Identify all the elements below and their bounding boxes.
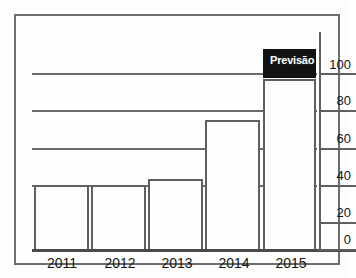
- chart-frame: Previsão 100 80 60 40 20 0 2011 2012 201…: [14, 14, 340, 265]
- y-label-80: 80: [337, 93, 351, 108]
- y-tick-40: [321, 185, 356, 187]
- x-label-2013: 2013: [147, 255, 207, 271]
- y-label-60: 60: [337, 131, 351, 146]
- y-tick-100: [321, 73, 356, 75]
- x-label-2011: 2011: [32, 255, 92, 271]
- x-axis-baseline: [32, 249, 356, 252]
- y-label-40: 40: [337, 168, 351, 183]
- bar-2015[interactable]: [263, 79, 316, 251]
- x-label-2015: 2015: [261, 255, 321, 271]
- bar-2012[interactable]: [91, 185, 146, 251]
- y-tick-60: [321, 148, 356, 150]
- forecast-label: Previsão: [270, 54, 314, 66]
- y-tick-80: [321, 110, 356, 112]
- x-label-2014: 2014: [204, 255, 264, 271]
- y-tick-20: [321, 222, 356, 224]
- x-label-2012: 2012: [90, 255, 150, 271]
- y-axis-scale: 100 80 60 40 20 0: [319, 32, 354, 251]
- y-tick-0: [321, 249, 356, 251]
- y-label-100: 100: [329, 57, 351, 72]
- y-label-0: 0: [344, 232, 351, 247]
- plot-area: Previsão: [32, 32, 317, 251]
- x-axis-labels: 2011 2012 2013 2014 2015: [32, 253, 354, 278]
- bar-2014[interactable]: [205, 120, 260, 251]
- bar-2013[interactable]: [148, 179, 203, 251]
- y-label-20: 20: [337, 205, 351, 220]
- bar-2011[interactable]: [34, 185, 89, 251]
